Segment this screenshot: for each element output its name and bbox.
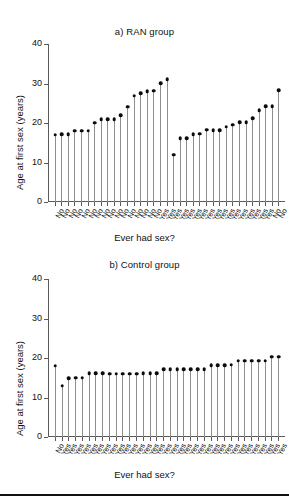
- figure: a) RAN group Age at first sex (years) 01…: [0, 0, 289, 503]
- panel-b-data-point: [108, 372, 112, 376]
- panel-b-x-tick: [251, 437, 252, 441]
- panel-a-data-point: [80, 129, 84, 133]
- panel-b-x-tick: [122, 437, 123, 441]
- panel-b-x-axis-label: Ever had sex?: [0, 469, 289, 480]
- panel-a-stem: [206, 130, 207, 202]
- panel-b-data-point: [216, 363, 220, 367]
- panel-a-data-point: [238, 120, 242, 124]
- panel-a-x-tick: [167, 202, 168, 206]
- panel-a-x-tick: [206, 202, 207, 206]
- panel-b-x-tick: [278, 437, 279, 441]
- panel-a-data-point: [152, 89, 156, 93]
- panel-a-y-tick: 40: [44, 44, 48, 45]
- panel-b-data-point: [67, 376, 71, 380]
- panel-b-y-tick-label: 10: [32, 392, 42, 402]
- panel-a-stem: [74, 131, 75, 202]
- panel-a-x-tick: [74, 202, 75, 206]
- panel-a-data-point: [60, 133, 64, 137]
- panel-b-x-tick: [197, 437, 198, 441]
- panel-a-data-point: [172, 153, 176, 157]
- panel-a-y-tick: 30: [44, 84, 48, 85]
- panel-a-x-tick: [88, 202, 89, 206]
- panel-a-data-point: [66, 133, 70, 137]
- panel-b-stem: [197, 369, 198, 437]
- panel-a-data-point: [119, 113, 123, 117]
- panel-b-x-tick: [82, 437, 83, 441]
- panel-b-x-tick: [55, 437, 56, 441]
- panel-a-stem: [173, 155, 174, 202]
- panel-a-stem: [107, 119, 108, 202]
- panel-b-stem: [211, 365, 212, 437]
- panel-b-y-tick: 10: [44, 398, 48, 399]
- panel-a-x-tick: [120, 202, 121, 206]
- panel-b-data-point: [141, 372, 145, 376]
- panel-b-y-tick: 20: [44, 358, 48, 359]
- panel-a-data-point: [224, 125, 228, 129]
- panel-a-y-tick-label: 10: [32, 157, 42, 167]
- panel-a-x-tick: [239, 202, 240, 206]
- panel-a-y-tick: 10: [44, 163, 48, 164]
- panel-a-x-tick: [134, 202, 135, 206]
- panel-a-stem: [147, 91, 148, 202]
- panel-a-data-point: [132, 94, 136, 98]
- panel-b-plot-area: 010203040NoYesYesYesYesYesYesYesYesYesYe…: [48, 279, 285, 437]
- panel-b-stem: [122, 374, 123, 437]
- panel-a-x-tick: [232, 202, 233, 206]
- panel-b-data-point: [53, 364, 57, 368]
- panel-a-x-tick: [186, 202, 187, 206]
- panel-b-data-point: [94, 372, 98, 376]
- panel-b-x-tick: [224, 437, 225, 441]
- panel-b-stem: [95, 373, 96, 437]
- panel-a-x-tick: [127, 202, 128, 206]
- panel-b-x-tick: [238, 437, 239, 441]
- panel-a-stem: [88, 131, 89, 202]
- panel-a-title: a) RAN group: [0, 26, 289, 37]
- panel-a-x-tick: [278, 202, 279, 206]
- panel-a-y-tick-label: 20: [32, 117, 42, 127]
- panel-a-stem: [167, 79, 168, 202]
- panel-a-stem: [272, 106, 273, 202]
- panel-b-stem: [102, 373, 103, 437]
- panel-b-y-tick-label: 0: [37, 431, 42, 441]
- panel-b-x-tick: [62, 437, 63, 441]
- panel-a-y-tick-label: 40: [32, 38, 42, 48]
- panel-b-y-tick: 40: [44, 279, 48, 280]
- panel-a-stem: [68, 134, 69, 202]
- panel-b-x-tick: [129, 437, 130, 441]
- panel-a-y-axis-label: Age at first sex (years): [14, 95, 25, 190]
- panel-b-stem: [129, 374, 130, 437]
- panel-a-data-point: [211, 128, 215, 132]
- panel-a-x-tick: [55, 202, 56, 206]
- panel-a-y-tick-label: 0: [37, 196, 42, 206]
- panel-b-y-tick-label: 40: [32, 273, 42, 283]
- panel-b-y-axis-label: Age at first sex (years): [14, 341, 25, 436]
- panel-b-data-point: [169, 368, 173, 372]
- panel-a-data-point: [205, 128, 209, 132]
- panel-b-data-point: [121, 372, 125, 376]
- panel-b-x-tick: [258, 437, 259, 441]
- panel-b-x-tick: [183, 437, 184, 441]
- panel-b-x-tick: [163, 437, 164, 441]
- panel-a-stem: [94, 123, 95, 202]
- panel-b-data-point: [128, 372, 132, 376]
- panel-b-y-tick-label: 30: [32, 313, 42, 323]
- panel-a-data-point: [185, 136, 189, 140]
- panel-a-data-point: [126, 105, 130, 109]
- panel-b-x-tick: [75, 437, 76, 441]
- panel-a-x-axis-label: Ever had sex?: [0, 232, 289, 243]
- panel-b-y-tick: 30: [44, 319, 48, 320]
- panel-a-x-tick: [153, 202, 154, 206]
- panel-a-data-point: [86, 129, 90, 133]
- panel-b-stem: [265, 361, 266, 437]
- panel-a-x-tick: [213, 202, 214, 206]
- panel-a-stem: [81, 131, 82, 202]
- panel-b-stem: [116, 374, 117, 437]
- panel-b-data-point: [148, 372, 152, 376]
- panel-a-x-tick: [246, 202, 247, 206]
- panel-a-data-point: [113, 117, 117, 121]
- panel-a-data-point: [257, 109, 261, 113]
- panel-b-stem: [244, 361, 245, 437]
- panel-b-data-point: [101, 372, 105, 376]
- panel-a-data-point: [145, 90, 149, 94]
- panel-a-x-tick: [199, 202, 200, 206]
